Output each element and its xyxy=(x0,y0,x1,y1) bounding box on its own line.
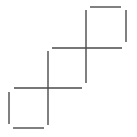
stacked-squares-diagram xyxy=(0,0,137,137)
